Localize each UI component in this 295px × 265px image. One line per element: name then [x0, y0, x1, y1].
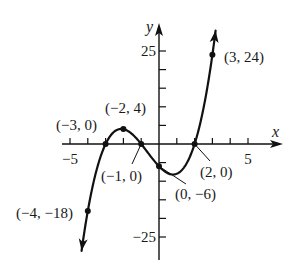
point-marker	[209, 52, 215, 58]
point-marker	[85, 208, 91, 214]
point-label: (−2, 4)	[105, 100, 146, 117]
function-curve	[82, 31, 216, 251]
point-marker	[138, 141, 144, 147]
point-label: (−4, −18)	[16, 205, 73, 222]
point-label: (2, 0)	[200, 164, 233, 181]
leader-line	[132, 144, 141, 164]
leader-line	[195, 144, 210, 161]
point-marker	[192, 141, 198, 147]
point-marker	[120, 126, 126, 132]
y-axis-label: y	[144, 18, 154, 36]
point-label: (−1, 0)	[101, 168, 142, 185]
y-tick-label: 25	[141, 43, 156, 59]
y-tick-label: −25	[133, 229, 156, 245]
x-tick-label: 5	[244, 151, 252, 167]
x-axis-label: x	[271, 123, 279, 140]
point-label: (0, −6)	[175, 186, 216, 203]
point-label: (3, 24)	[224, 49, 264, 66]
curve-end-arrows	[79, 31, 219, 251]
point-marker	[103, 141, 109, 147]
x-tick-label: −5	[62, 151, 78, 167]
point-marker	[156, 163, 162, 169]
label-leader-lines	[132, 144, 210, 184]
point-label: (−3, 0)	[56, 117, 97, 134]
cubic-function-graph: −5525−25 (−4, −18)(−3, 0)(−2, 4)(−1, 0)(…	[0, 0, 295, 265]
point-labels: (−4, −18)(−3, 0)(−2, 4)(−1, 0)(0, −6)(2,…	[16, 49, 264, 222]
